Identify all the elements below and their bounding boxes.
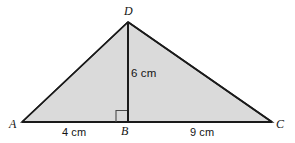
vertex-label-a: A [9, 118, 16, 130]
vertex-label-d: D [124, 5, 133, 17]
geometry-figure: D A B C 6 cm 4 cm 9 cm [0, 0, 295, 143]
vertex-label-c: C [276, 118, 284, 130]
vertex-label-b: B [121, 125, 128, 137]
base-left-measure-label: 4 cm [62, 127, 86, 138]
base-right-measure-label: 9 cm [190, 127, 214, 138]
height-measure-label: 6 cm [131, 68, 156, 80]
